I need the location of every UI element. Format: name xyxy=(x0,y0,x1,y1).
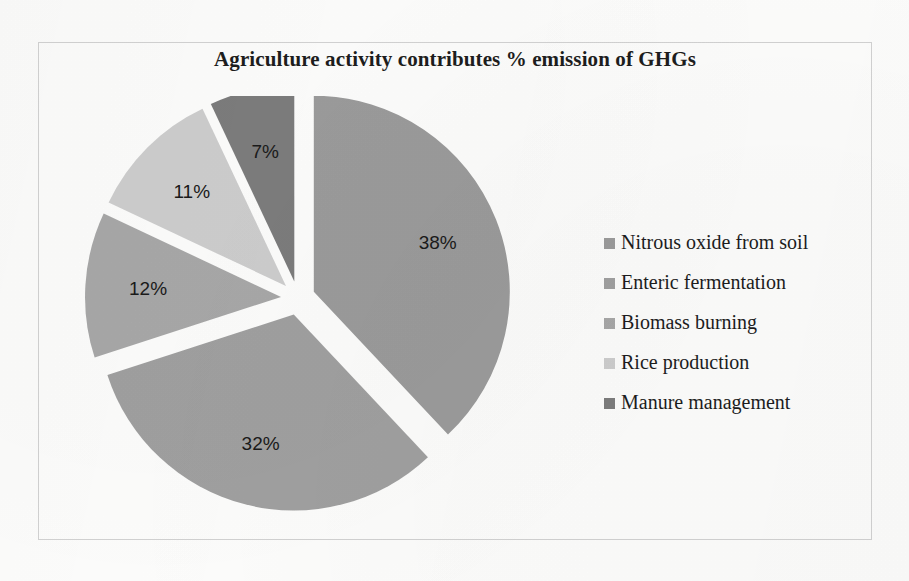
legend-swatch-icon xyxy=(604,398,615,409)
legend-swatch-icon xyxy=(604,238,615,249)
legend-item[interactable]: Nitrous oxide from soil xyxy=(604,222,884,262)
pie-slice-label: 38% xyxy=(419,232,457,253)
legend-item[interactable]: Rice production xyxy=(604,342,884,382)
legend-item-label: Biomass burning xyxy=(621,312,757,332)
legend-item[interactable]: Biomass burning xyxy=(604,302,884,342)
legend-item[interactable]: Enteric fermentation xyxy=(604,262,884,302)
pie-slice-label: 32% xyxy=(242,433,280,454)
pie-slice-label: 7% xyxy=(251,141,279,162)
pie-slice-label: 11% xyxy=(173,181,210,202)
pie-slice-label: 12% xyxy=(129,278,167,299)
legend-swatch-icon xyxy=(604,278,615,289)
legend-item-label: Enteric fermentation xyxy=(621,272,786,292)
pie-slice-group xyxy=(85,96,510,510)
chart-legend: Nitrous oxide from soilEnteric fermentat… xyxy=(604,222,884,422)
chart-title: Agriculture activity contributes % emiss… xyxy=(38,47,872,72)
legend-item[interactable]: Manure management xyxy=(604,382,884,422)
legend-item-label: Nitrous oxide from soil xyxy=(621,232,808,252)
pie-chart-svg: 38%32%12%11%7% xyxy=(60,96,550,536)
legend-swatch-icon xyxy=(604,318,615,329)
legend-swatch-icon xyxy=(604,358,615,369)
legend-item-label: Manure management xyxy=(621,392,790,412)
legend-item-label: Rice production xyxy=(621,352,749,372)
chart-page: Agriculture activity contributes % emiss… xyxy=(0,0,909,581)
pie-chart: 38%32%12%11%7% xyxy=(60,96,550,536)
